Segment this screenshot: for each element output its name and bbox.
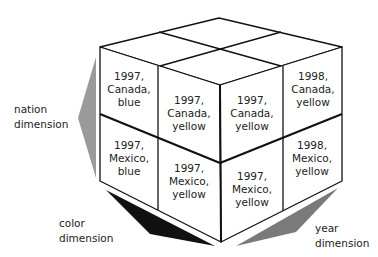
- year-dimension-label: yeardimension: [315, 222, 369, 249]
- data-cube-diagram: 1997,Canada,blue 1997,Canada,yellow 1997…: [0, 0, 378, 257]
- svg-text:1998,Mexico,yellow: 1998,Mexico,yellow: [292, 139, 332, 177]
- nation-dimension-arrow: [78, 57, 96, 178]
- nation-dimension-label: nationdimension: [14, 103, 68, 130]
- svg-text:1997,Mexico,yellow: 1997,Mexico,yellow: [232, 170, 272, 208]
- cell-right-bottom-2: 1998,Mexico,yellow: [292, 139, 332, 177]
- color-dimension-label: colordimension: [59, 217, 113, 244]
- cell-right-bottom-1: 1997,Mexico,yellow: [232, 170, 272, 208]
- svg-text:1997,Mexico,yellow: 1997,Mexico,yellow: [169, 162, 209, 200]
- cell-left-bottom-2: 1997,Mexico,yellow: [169, 162, 209, 200]
